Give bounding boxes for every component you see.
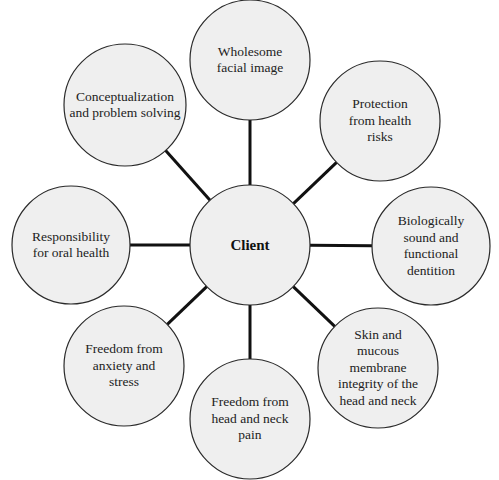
node-label-responsibility-for-oral-health: Responsibility for oral health	[12, 186, 130, 304]
node-label-conceptualization-problem-solving: Conceptualization and problem solving	[64, 44, 186, 166]
node-label-wholesome-facial-image: Wholesome facial image	[190, 0, 310, 120]
node-label-biologically-sound-dentition: Biologically sound and functional dentit…	[372, 187, 490, 305]
node-label-protection-from-health-risks: Protection from health risks	[320, 61, 440, 181]
center-node-label: Client	[190, 185, 310, 305]
node-label-freedom-from-head-neck-pain: Freedom from head and neck pain	[190, 359, 310, 479]
node-label-skin-mucous-membrane-integrity: Skin and mucous membrane integrity of th…	[318, 308, 438, 428]
node-label-freedom-from-anxiety-stress: Freedom from anxiety and stress	[64, 306, 184, 426]
